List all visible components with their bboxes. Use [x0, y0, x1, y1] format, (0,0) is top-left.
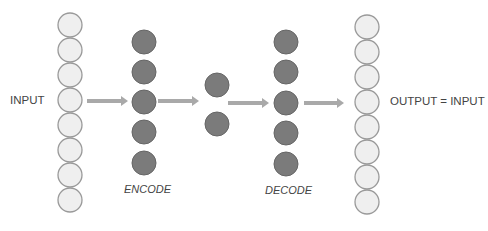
- input-node: [58, 88, 82, 112]
- code-node: [205, 112, 229, 136]
- arrow-icon: [228, 98, 269, 108]
- output-node: [355, 15, 379, 39]
- flow-arrows: [87, 96, 344, 108]
- decode-label: DECODE: [265, 184, 312, 196]
- input-node: [58, 13, 82, 37]
- output-node: [355, 165, 379, 189]
- encode-node: [132, 90, 156, 114]
- input-label: INPUT: [10, 94, 45, 106]
- layer-code: [205, 73, 229, 136]
- encode-node: [132, 151, 156, 175]
- decode-node: [274, 60, 298, 84]
- encode-label: ENCODE: [124, 183, 171, 195]
- arrow-icon: [87, 96, 128, 106]
- decode-node: [274, 121, 298, 145]
- encode-node: [132, 30, 156, 54]
- output-node: [355, 115, 379, 139]
- arrow-icon: [158, 96, 199, 106]
- input-node: [58, 38, 82, 62]
- input-node: [58, 188, 82, 212]
- output-node: [355, 65, 379, 89]
- output-node: [355, 40, 379, 64]
- input-node: [58, 163, 82, 187]
- input-node: [58, 138, 82, 162]
- decode-node: [274, 91, 298, 115]
- encode-node: [132, 60, 156, 84]
- autoencoder-diagram: [0, 0, 488, 231]
- layer-encode: [132, 30, 156, 175]
- input-node: [58, 63, 82, 87]
- output-node: [355, 90, 379, 114]
- code-node: [205, 73, 229, 97]
- output-node: [355, 190, 379, 214]
- output-node: [355, 140, 379, 164]
- decode-node: [274, 152, 298, 176]
- network-layers: [58, 13, 379, 214]
- decode-node: [274, 30, 298, 54]
- layer-output: [355, 15, 379, 214]
- output-label: OUTPUT = INPUT: [390, 95, 485, 107]
- layer-input: [58, 13, 82, 212]
- input-node: [58, 113, 82, 137]
- arrow-icon: [304, 98, 344, 108]
- encode-node: [132, 120, 156, 144]
- layer-decode: [274, 30, 298, 176]
